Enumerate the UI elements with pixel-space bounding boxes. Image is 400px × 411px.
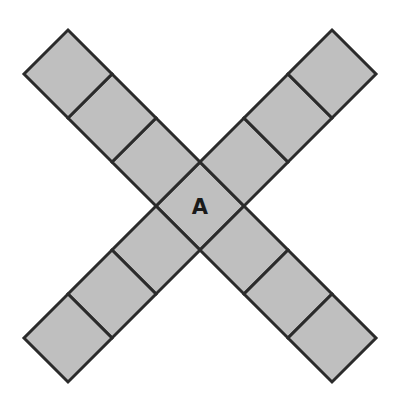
figure-canvas: A xyxy=(0,0,400,411)
tile-label-center: A xyxy=(192,195,209,219)
x-shape-square-tiling-diagram: A xyxy=(0,0,400,411)
tile-labels-group: A xyxy=(192,195,209,219)
